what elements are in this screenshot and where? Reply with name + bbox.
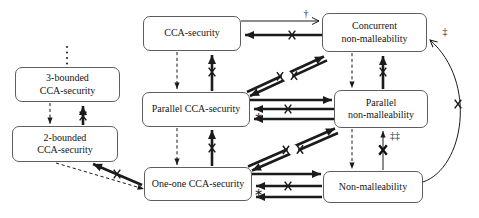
node-label: Parallel non-malleability [348, 97, 414, 122]
x-mark [455, 100, 462, 109]
node-cca-security: CCA-security [143, 16, 241, 51]
edge-parallel-nm-to-parallel-cca-separation [254, 105, 334, 114]
x-mark [209, 68, 216, 77]
x-mark [289, 31, 296, 40]
x-mark [291, 72, 297, 80]
node-3-bounded-cca-security: 3-bounded CCA-security [15, 67, 120, 102]
double-dagger-label: ‡ [443, 26, 448, 37]
edge-parallel-cca-to-cca-separation [209, 55, 216, 91]
edge-2bounded-to-3bounded-separation [80, 106, 87, 125]
x-mark [277, 72, 283, 80]
edge-oneone-to-parallel-cca-separation [209, 130, 216, 166]
edge-nm-to-parallel-nm-separation [379, 131, 387, 170]
x-mark [80, 112, 87, 121]
edge-oneone-to-2bounded-separation [93, 164, 142, 185]
edge-pair-parallel-cca-concurrent [247, 57, 327, 97]
x-mark [380, 68, 387, 77]
node-label: CCA-security [164, 27, 220, 40]
x-mark [283, 146, 289, 154]
security-notions-diagram: CCA-security Concurrent non-malleability… [0, 0, 479, 218]
x-mark [285, 105, 292, 114]
node-2-bounded-cca-security: 2-bounded CCA-security [12, 126, 118, 162]
edge-nm-to-concurrent-curved-separation [423, 40, 461, 182]
node-non-malleability: Non-malleability [323, 171, 423, 203]
node-parallel-non-malleability: Parallel non-malleability [334, 90, 428, 128]
x-mark-bold [379, 145, 387, 155]
edge-pair-oneone-parallel-nm [248, 129, 338, 171]
node-label: Parallel CCA-security [152, 103, 241, 116]
node-label: Concurrent non-malleability [341, 20, 407, 45]
double-dagger-twice-label: ‡‡ [390, 130, 400, 141]
node-concurrent-non-malleability: Concurrent non-malleability [322, 13, 427, 52]
star-label-nm: ∗ [254, 186, 263, 198]
node-parallel-cca-security: Parallel CCA-security [142, 92, 250, 127]
dagger-label: † [304, 8, 309, 19]
edge-concurrent-to-cca-separation [245, 31, 322, 40]
star-label-parallel: ∗ [254, 110, 263, 122]
edge-parallel-nm-to-concurrent-separation [380, 56, 387, 89]
x-mark [285, 182, 292, 191]
crossing-gap [288, 144, 299, 155]
node-label: Non-malleability [339, 181, 407, 194]
node-label: 3-bounded CCA-security [40, 72, 96, 97]
edge-2bounded-to-oneone [56, 163, 144, 189]
x-mark [114, 170, 121, 179]
x-mark [209, 144, 216, 153]
crossing-gap [282, 71, 293, 82]
node-label: One-one CCA-security [152, 178, 244, 191]
node-one-one-cca-security: One-one CCA-security [144, 167, 252, 201]
ellipsis-dots [66, 46, 68, 65]
x-mark [297, 145, 303, 153]
edge-nm-to-oneone-separation [256, 182, 322, 191]
node-label: 2-bounded CCA-security [37, 132, 93, 157]
